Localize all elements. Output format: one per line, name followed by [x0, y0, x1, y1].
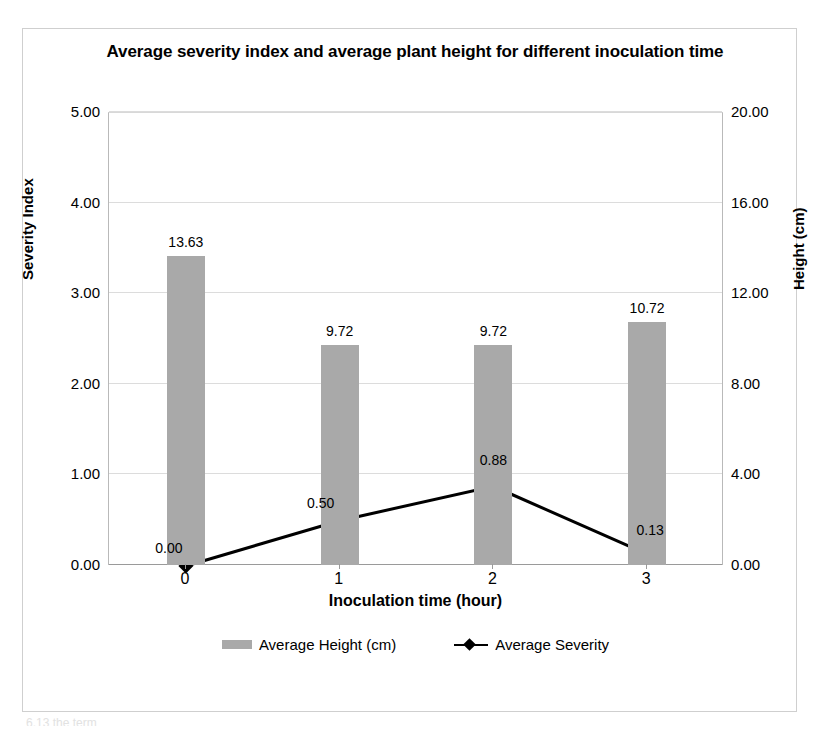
x-tick-label: 0: [155, 569, 215, 589]
bar-average-height: [167, 256, 205, 565]
line-value-label: 0.50: [286, 495, 356, 511]
y-left-tick-label: 0.00: [46, 557, 100, 573]
plot-area: 13.639.729.7210.720.000.500.880.13: [108, 112, 723, 565]
y-left-tick-label: 5.00: [46, 104, 100, 120]
y-left-tick-label: 4.00: [46, 195, 100, 211]
x-axis-ticks: 0123: [108, 569, 723, 593]
legend-item-average-severity: Average Severity: [454, 636, 609, 653]
x-tick-label: 1: [309, 569, 369, 589]
scan-artifact-text: 6.13 the term: [26, 716, 97, 726]
line-value-label: 0.00: [134, 540, 204, 556]
line-value-label: 0.88: [458, 452, 528, 468]
bar-value-label: 9.72: [458, 323, 528, 339]
line-value-label: 0.13: [615, 522, 685, 538]
y-left-tick-label: 3.00: [46, 285, 100, 301]
severity-line-path: [186, 486, 647, 566]
chart-title: Average severity index and average plant…: [70, 40, 760, 64]
legend-item-average-height: Average Height (cm): [222, 636, 396, 653]
gridline: [109, 111, 722, 112]
y-right-tick-label: 20.00: [731, 104, 787, 120]
y-axis-right-title: Height (cm): [790, 208, 807, 291]
bar-value-label: 13.63: [151, 234, 221, 250]
chart-legend: Average Height (cm) Average Severity: [108, 636, 723, 653]
legend-label-average-severity: Average Severity: [495, 636, 609, 653]
bar-value-label: 10.72: [612, 300, 682, 316]
bar-swatch-icon: [222, 640, 252, 649]
y-right-tick-label: 0.00: [731, 557, 787, 573]
x-axis-title: Inoculation time (hour): [108, 592, 723, 610]
y-axis-right-ticks: 0.004.008.0012.0016.0020.00: [731, 112, 791, 565]
line-marker-swatch-icon: [454, 639, 488, 651]
y-right-tick-label: 16.00: [731, 195, 787, 211]
y-right-tick-label: 8.00: [731, 376, 787, 392]
y-left-tick-label: 1.00: [46, 466, 100, 482]
bar-average-height: [321, 345, 359, 565]
y-right-tick-label: 4.00: [731, 466, 787, 482]
y-left-tick-label: 2.00: [46, 376, 100, 392]
gridline: [109, 202, 722, 203]
x-tick-label: 3: [616, 569, 676, 589]
legend-label-average-height: Average Height (cm): [259, 636, 396, 653]
y-axis-left-ticks: 0.001.002.003.004.005.00: [36, 112, 100, 565]
y-right-tick-label: 12.00: [731, 285, 787, 301]
x-tick-label: 2: [462, 569, 522, 589]
bar-value-label: 9.72: [305, 323, 375, 339]
y-axis-left-title: Severity Index: [19, 178, 36, 280]
